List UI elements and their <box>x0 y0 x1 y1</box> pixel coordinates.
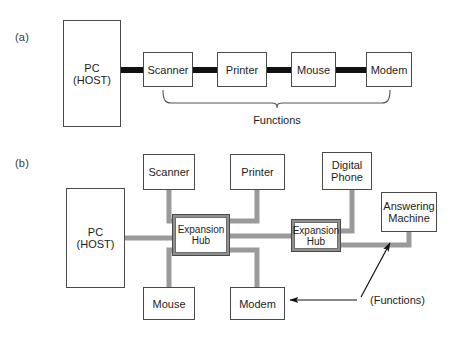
panel-a-node-modem-label: Modem <box>369 64 410 76</box>
panel-b-node-scanner-label: Scanner <box>147 166 192 178</box>
panel-b-functions-annotation: (Functions) <box>370 294 425 306</box>
panel-label-b: (b) <box>15 157 29 169</box>
panel-b-node-answering-machine: Answering Machine <box>381 192 437 232</box>
link-printer-to-hub1 <box>228 188 257 221</box>
panel-b-node-printer: Printer <box>230 154 285 190</box>
panel-a-node-modem: Modem <box>366 52 412 87</box>
panel-b-pc-host: PC (HOST) <box>66 188 125 288</box>
panel-a-node-scanner-label: Scanner <box>146 64 191 76</box>
functions-brace <box>163 90 390 108</box>
panel-b-node-mouse: Mouse <box>143 287 195 320</box>
panel-b-expansion-hub-1: Expansion Hub <box>172 214 230 256</box>
panel-a-node-printer: Printer <box>217 52 267 87</box>
panel-b-node-printer-label: Printer <box>239 166 275 178</box>
panel-a-node-scanner: Scanner <box>143 52 193 87</box>
figure-canvas: (a) PC (HOST) Scanner Printer Mouse Mode… <box>0 0 455 337</box>
panel-b-node-modem: Modem <box>230 287 285 320</box>
panel-a-functions-label: Functions <box>253 114 301 126</box>
panel-b-node-digital-phone-label: Digital Phone <box>329 159 365 183</box>
panel-b-expansion-hub-2: Expansion Hub <box>291 219 341 252</box>
arrow-functions-to-hub-link <box>361 243 390 297</box>
panel-b-node-mouse-label: Mouse <box>150 298 187 310</box>
panel-b-expansion-hub-2-label: Expansion Hub <box>293 225 340 247</box>
link-hub2-to-answering-machine <box>339 232 409 245</box>
panel-b-node-modem-label: Modem <box>237 298 278 310</box>
panel-label-a: (a) <box>15 31 29 43</box>
panel-b-links <box>123 188 409 289</box>
panel-b-expansion-hub-1-label: Expansion Hub <box>178 224 225 246</box>
panel-a-pc-host-label: PC (HOST) <box>71 62 113 86</box>
panel-a-pc-host: PC (HOST) <box>63 20 121 127</box>
link-modem-to-hub1 <box>228 250 257 289</box>
panel-a-node-printer-label: Printer <box>224 64 260 76</box>
panel-b-node-scanner: Scanner <box>143 154 195 190</box>
panel-a-node-mouse: Mouse <box>291 52 336 87</box>
panel-b-node-digital-phone: Digital Phone <box>322 152 372 190</box>
panel-a-node-mouse-label: Mouse <box>295 64 332 76</box>
panel-b-node-answering-machine-label: Answering Machine <box>381 200 436 224</box>
panel-b-pc-host-label: PC (HOST) <box>75 226 117 250</box>
